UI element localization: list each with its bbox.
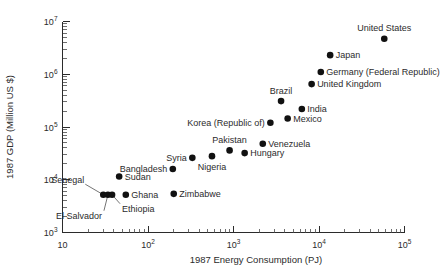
- data-point-label: Ethiopia: [122, 204, 155, 214]
- data-point: [226, 147, 233, 154]
- x-tick-label: 102: [141, 238, 155, 250]
- data-point: [284, 115, 291, 122]
- data-point-label: Senegal: [51, 175, 84, 185]
- data-point-label: El Salvador: [56, 211, 102, 221]
- data-point-label: Zimbabwe: [179, 189, 221, 199]
- x-axis-title: 1987 Energy Consumption (PJ): [190, 254, 323, 265]
- data-point-label: India: [307, 104, 327, 114]
- data-point-label: Nigeria: [198, 162, 227, 172]
- data-point: [259, 141, 266, 148]
- data-point-label: Syria: [166, 153, 187, 163]
- data-point-label: Sudan: [125, 172, 151, 182]
- data-point: [318, 69, 325, 76]
- data-point: [109, 191, 116, 198]
- data-point-label: Pakistan: [212, 135, 247, 145]
- data-point: [241, 150, 248, 157]
- y-tick-label: 103: [44, 226, 58, 238]
- x-axis-ticks: [63, 226, 405, 233]
- y-axis-title: 1987 GDP (Million US $): [4, 75, 15, 179]
- data-point: [170, 191, 177, 198]
- x-tick-label: 104: [312, 238, 326, 250]
- scatter-chart-figure: 103104105106107 10102103104105 1987 GDP …: [0, 0, 448, 274]
- x-tick-label: 10: [57, 240, 67, 250]
- x-tick-label: 103: [227, 238, 241, 250]
- data-point: [278, 98, 285, 105]
- data-point-labels: United StatesJapanGermany (Federal Repub…: [51, 23, 440, 220]
- data-point-label: Korea (Republic of): [187, 118, 265, 128]
- data-point-label: Ghana: [131, 190, 158, 200]
- data-point-label: United States: [357, 23, 412, 33]
- data-point-label: Hungary: [250, 148, 285, 158]
- data-point-label: United Kingdom: [317, 79, 381, 89]
- y-axis-ticks: [63, 22, 70, 233]
- data-point-label: Japan: [336, 50, 361, 60]
- x-tick-label: 105: [398, 238, 412, 250]
- data-point: [381, 35, 388, 42]
- data-point: [189, 155, 196, 162]
- data-point: [299, 106, 306, 113]
- y-axis-tick-labels: 103104105106107: [44, 15, 58, 238]
- data-point-label: Germany (Federal Republic): [326, 67, 440, 77]
- data-point: [169, 166, 176, 173]
- y-tick-label: 105: [44, 121, 58, 133]
- scatter-plot-canvas: 103104105106107 10102103104105 1987 GDP …: [0, 0, 448, 274]
- data-point-label: Mexico: [293, 114, 322, 124]
- data-point: [308, 81, 315, 88]
- y-tick-label: 106: [44, 68, 58, 80]
- data-point: [116, 173, 123, 180]
- data-point: [209, 153, 216, 160]
- data-point: [123, 191, 130, 198]
- y-tick-label: 107: [44, 15, 58, 27]
- data-point: [327, 52, 334, 59]
- x-axis-tick-labels: 10102103104105: [57, 238, 411, 250]
- data-point: [267, 120, 274, 127]
- data-point-label: Brazil: [270, 86, 293, 96]
